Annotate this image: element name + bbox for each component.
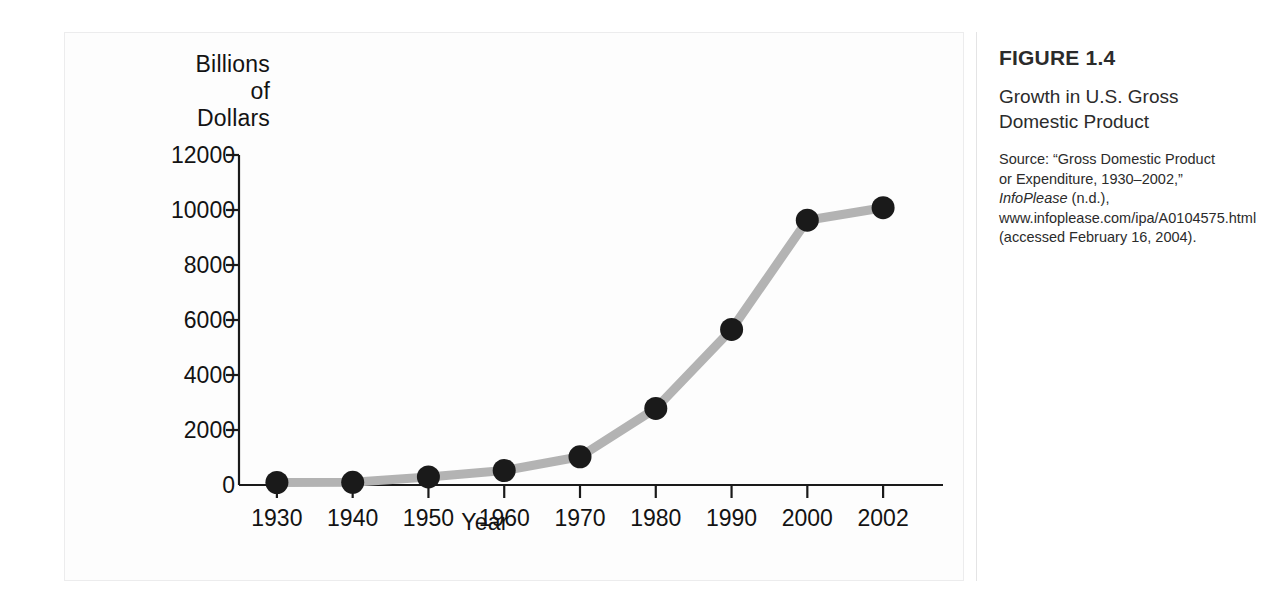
source-prefix: Source: “Gross Domestic Product or Expen… (999, 151, 1215, 187)
caption-panel: FIGURE 1.4 Growth in U.S. Gross Domestic… (976, 32, 1236, 581)
data-point-marker (417, 465, 440, 488)
figure-number: FIGURE 1.4 (999, 46, 1218, 70)
figure-source: Source: “Gross Domestic Product or Expen… (999, 150, 1218, 248)
data-point-marker (644, 397, 667, 420)
chart-panel: Billions of Dollars 02000400060008000100… (64, 32, 964, 581)
source-publication: InfoPlease (999, 190, 1068, 206)
data-point-marker (569, 445, 592, 468)
data-point-marker (720, 318, 743, 341)
data-point-marker (872, 196, 895, 219)
figure-title: Growth in U.S. Gross Domestic Product (999, 84, 1218, 134)
data-point-marker (265, 471, 288, 494)
plot-area: Billions of Dollars 02000400060008000100… (65, 33, 965, 582)
data-point-marker (796, 209, 819, 232)
data-point-marker (341, 471, 364, 494)
line-chart-graphic (65, 33, 965, 582)
figure-page: Billions of Dollars 02000400060008000100… (0, 0, 1282, 615)
series-line (277, 208, 883, 483)
data-point-marker (493, 459, 516, 482)
